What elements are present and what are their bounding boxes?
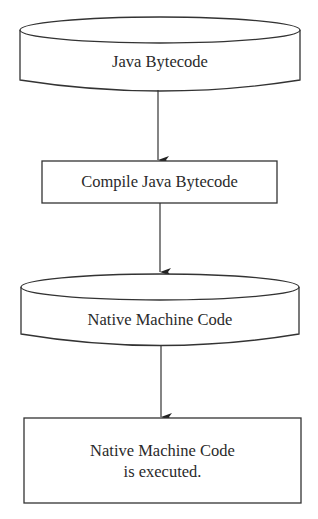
executed-label: Native Machine Code is executed. [24, 440, 301, 482]
compile-label: Compile Java Bytecode [42, 172, 277, 192]
java-bytecode-label: Java Bytecode [20, 52, 300, 72]
native-code-label: Native Machine Code [21, 310, 299, 330]
executed-label-line-1: Native Machine Code [24, 440, 301, 461]
flowchart-canvas: Java Bytecode Compile Java Bytecode Nati… [0, 0, 318, 519]
executed-label-line-2: is executed. [24, 461, 301, 482]
